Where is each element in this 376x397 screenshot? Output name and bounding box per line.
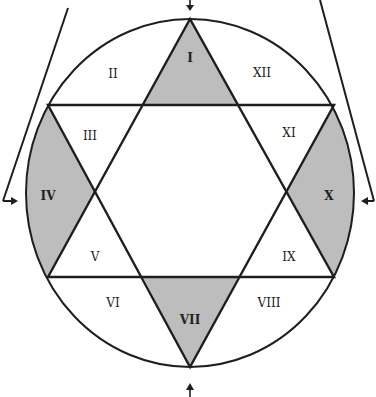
bottom-arrow: [186, 383, 194, 397]
arrowhead-down-icon: [186, 5, 194, 11]
label-house-V: V: [90, 250, 100, 264]
top-arrow: [186, 0, 194, 11]
label-house-III: III: [83, 129, 97, 143]
label-house-X: X: [324, 189, 334, 203]
label-house-I: I: [187, 51, 193, 65]
label-house-VIII: VIII: [257, 296, 281, 310]
arrowhead-left-icon: [361, 197, 368, 205]
label-house-IV: IV: [41, 189, 57, 203]
hexagram-diagram: I II III IV V VI VII VIII IX X XI XII: [0, 0, 376, 397]
label-house-IX: IX: [282, 250, 296, 264]
arrowhead-right-icon: [11, 197, 18, 205]
label-house-II: II: [108, 67, 118, 81]
arrowhead-up-icon: [186, 383, 194, 390]
label-house-XII: XII: [253, 66, 271, 80]
label-house-VII: VII: [179, 313, 201, 327]
label-house-VI: VI: [105, 296, 120, 310]
label-house-XI: XI: [282, 126, 296, 140]
